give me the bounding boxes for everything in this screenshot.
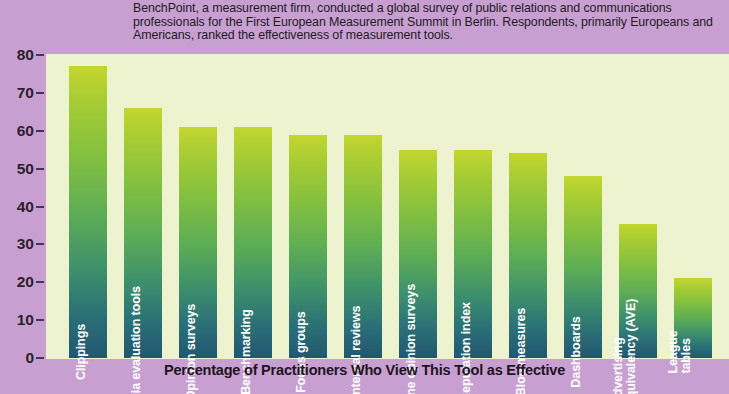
y-axis-tick-label: 70	[0, 84, 34, 102]
bar[interactable]: Opinion surveys	[179, 127, 217, 358]
bar-group[interactable]: Clippings	[69, 54, 107, 358]
y-axis-tick-label: 80	[0, 46, 34, 64]
bar[interactable]: Blog measures	[509, 153, 547, 358]
y-axis-tick-label: 60	[0, 122, 34, 140]
bar-category-label: Blog measures	[515, 308, 528, 394]
bar-group[interactable]: Blog measures	[509, 54, 547, 358]
chart-caption: BenchPoint, a measurement firm, conducte…	[133, 2, 723, 43]
bar-category-label-line: equivalency (AVE)	[625, 299, 638, 394]
bar[interactable]: Dashboards	[564, 176, 602, 358]
bar-group[interactable]: Reputation index	[454, 54, 492, 358]
y-axis-tick-label: 50	[0, 160, 34, 178]
bar-category-label: Opinion surveys	[185, 304, 198, 394]
bar-group[interactable]: Benchmarking	[234, 54, 272, 358]
y-axis-tick-mark	[36, 319, 44, 321]
bar-group[interactable]: Advertisingequivalency (AVE)	[619, 54, 657, 358]
bar-group[interactable]: Online opinion surveys	[399, 54, 437, 358]
y-axis-tick-label: 10	[0, 311, 34, 329]
bar-group[interactable]: Opinion surveys	[179, 54, 217, 358]
y-axis-tick-mark	[36, 357, 44, 359]
chart-figure: BenchPoint, a measurement firm, conducte…	[0, 0, 729, 394]
bar[interactable]: Advertisingequivalency (AVE)	[619, 224, 657, 358]
y-axis-tick-mark	[36, 54, 44, 56]
y-axis-tick-label: 20	[0, 273, 34, 291]
bar[interactable]: Internal reviews	[344, 135, 382, 358]
bar-group[interactable]: Focus groups	[289, 54, 327, 358]
y-axis-tick-mark	[36, 92, 44, 94]
bar-group[interactable]: Leaguetables	[674, 54, 712, 358]
y-axis-tick-mark	[36, 168, 44, 170]
bars-container: ClippingsMedia evaluation toolsOpinion s…	[46, 54, 729, 358]
x-axis-title: Percentage of Practitioners Who View Thi…	[0, 362, 729, 378]
bar-category-label: Advertisingequivalency (AVE)	[612, 299, 638, 394]
bar-category-label: Internal reviews	[350, 306, 363, 394]
bar[interactable]: Online opinion surveys	[399, 150, 437, 358]
y-axis-tick-label: 40	[0, 198, 34, 216]
bar[interactable]: Focus groups	[289, 135, 327, 358]
bar-group[interactable]: Media evaluation tools	[124, 54, 162, 358]
bar-category-label: Focus groups	[295, 311, 308, 392]
y-axis-tick-mark	[36, 281, 44, 283]
bar-category-label: Reputation index	[460, 302, 473, 394]
bar[interactable]: Clippings	[69, 66, 107, 358]
bar[interactable]: Benchmarking	[234, 127, 272, 358]
bar[interactable]: Media evaluation tools	[124, 108, 162, 358]
bar-category-label: Benchmarking	[240, 309, 253, 394]
y-axis-tick-mark	[36, 243, 44, 245]
y-axis-tick-label: 30	[0, 235, 34, 253]
y-axis-tick-mark	[36, 130, 44, 132]
y-axis-tick-mark	[36, 206, 44, 208]
bar-group[interactable]: Internal reviews	[344, 54, 382, 358]
bar[interactable]: Reputation index	[454, 150, 492, 358]
bar-group[interactable]: Dashboards	[564, 54, 602, 358]
bar[interactable]: Leaguetables	[674, 278, 712, 358]
